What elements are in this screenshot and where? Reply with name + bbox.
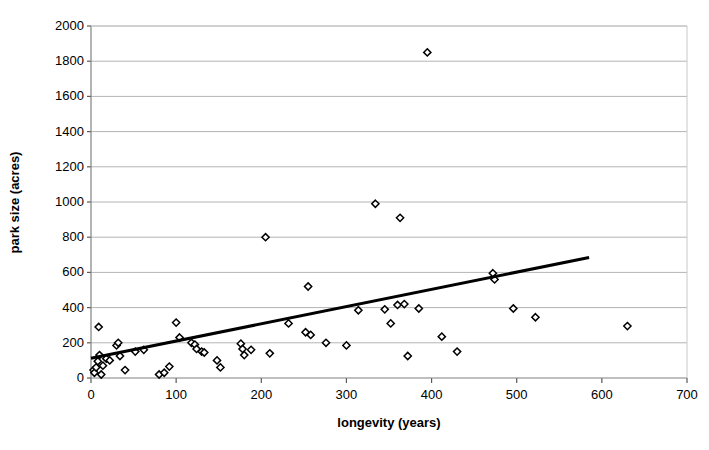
y-tick-label: 400	[28, 301, 84, 315]
data-point	[247, 346, 254, 353]
y-tick-label: 2000	[28, 19, 84, 33]
data-point	[510, 305, 517, 312]
y-tick-label: 1000	[28, 195, 84, 209]
data-point	[322, 339, 329, 346]
y-tick-label: 1400	[28, 125, 84, 139]
data-point	[305, 283, 312, 290]
x-tick-label: 600	[582, 387, 622, 402]
gridlines	[91, 26, 687, 343]
data-point	[166, 363, 173, 370]
y-tick-label: 0	[28, 371, 84, 385]
data-point	[404, 352, 411, 359]
data-point	[624, 322, 631, 329]
data-point	[438, 333, 445, 340]
y-tick-label: 600	[28, 265, 84, 279]
tick-marks	[87, 26, 687, 383]
data-point	[372, 200, 379, 207]
x-tick-label: 0	[71, 387, 111, 402]
data-point	[98, 371, 105, 378]
data-point	[415, 305, 422, 312]
data-point	[262, 234, 269, 241]
y-tick-label: 1800	[28, 54, 84, 68]
x-tick-label: 500	[497, 387, 537, 402]
data-point	[173, 319, 180, 326]
data-point-group	[90, 49, 631, 378]
x-tick-label: 400	[412, 387, 452, 402]
data-point	[454, 348, 461, 355]
data-point	[213, 357, 220, 364]
data-point	[532, 314, 539, 321]
data-point	[121, 366, 128, 373]
data-point	[266, 350, 273, 357]
data-point	[424, 49, 431, 56]
x-tick-label: 200	[241, 387, 281, 402]
data-point	[381, 306, 388, 313]
y-tick-label: 200	[28, 336, 84, 350]
x-tick-label: 300	[326, 387, 366, 402]
scatter-chart: park size (acres) longevity (years) 0200…	[0, 0, 709, 450]
x-tick-label: 100	[156, 387, 196, 402]
data-point	[217, 364, 224, 371]
data-point	[396, 214, 403, 221]
plot-area	[0, 0, 709, 450]
data-point	[285, 320, 292, 327]
y-tick-label: 1200	[28, 160, 84, 174]
y-tick-label: 800	[28, 230, 84, 244]
data-point	[387, 320, 394, 327]
y-tick-label: 1600	[28, 89, 84, 103]
data-point	[401, 300, 408, 307]
data-point	[95, 323, 102, 330]
x-tick-label: 700	[667, 387, 707, 402]
